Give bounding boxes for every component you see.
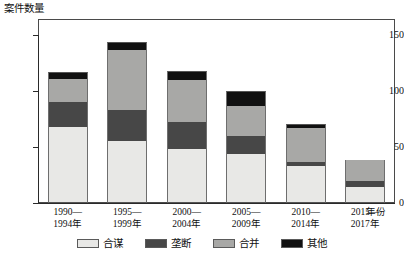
bar-segment[interactable]	[107, 50, 147, 110]
legend-swatch	[77, 239, 99, 248]
x-tick-label-line: 1999年	[96, 219, 158, 231]
bar-stack[interactable]	[107, 42, 147, 203]
x-tick-label: 2005—2009年	[215, 207, 277, 230]
bar-segment[interactable]	[345, 181, 385, 188]
bar-segment[interactable]	[226, 136, 266, 154]
x-tick-label-line: 2009年	[215, 219, 277, 231]
x-axis-line	[38, 203, 395, 204]
x-tick-label-line: 2017年	[334, 219, 396, 231]
legend-label: 合并	[239, 238, 259, 249]
bar-stack[interactable]	[226, 91, 266, 203]
bar-segment[interactable]	[226, 106, 266, 136]
bar-segment[interactable]	[48, 127, 88, 203]
legend-swatch	[281, 239, 303, 248]
legend-item[interactable]: 其他	[281, 238, 327, 249]
x-tick-label: 2000—2004年	[156, 207, 218, 230]
bar-segment[interactable]	[286, 128, 326, 162]
x-axis-title: 年份	[366, 207, 386, 219]
legend-swatch	[145, 239, 167, 248]
y-axis-title: 案件数量	[4, 2, 44, 15]
bar-segment[interactable]	[167, 122, 207, 149]
x-tick-label-line: 2004年	[156, 219, 218, 231]
bar-segment[interactable]	[107, 141, 147, 203]
legend-item[interactable]: 垄断	[145, 238, 191, 249]
x-tick-label-line: 1995—	[96, 207, 158, 219]
bar-segment[interactable]	[345, 187, 385, 203]
legend-item[interactable]: 合谋	[77, 238, 123, 249]
bar-segment[interactable]	[107, 42, 147, 50]
x-tick-label-line: 2000—	[156, 207, 218, 219]
legend-swatch	[213, 239, 235, 248]
bar-stack[interactable]	[286, 124, 326, 203]
x-tick-label-line: 2010—	[275, 207, 337, 219]
x-tick-label: 1995—1999年	[96, 207, 158, 230]
legend-label: 垄断	[171, 238, 191, 249]
bar-segment[interactable]	[286, 166, 326, 203]
bar-segment[interactable]	[48, 79, 88, 103]
bar-segment[interactable]	[107, 110, 147, 141]
bar-segment[interactable]	[48, 72, 88, 79]
bar-stack[interactable]	[167, 71, 207, 203]
stacked-bar-chart: 案件数量 050100150 1990—1994年1995—1999年2000—…	[0, 0, 404, 263]
x-tick-label-line: 2014年	[275, 219, 337, 231]
bar-segment[interactable]	[167, 149, 207, 203]
chart-legend: 合谋垄断合并其他	[0, 238, 404, 249]
x-tick-label-line: 1990—	[37, 207, 99, 219]
bar-stack[interactable]	[345, 160, 385, 203]
x-tick-label: 2010—2014年	[275, 207, 337, 230]
x-tick-label: 1990—1994年	[37, 207, 99, 230]
bar-segment[interactable]	[167, 71, 207, 80]
legend-label: 合谋	[103, 238, 123, 249]
legend-item[interactable]: 合并	[213, 238, 259, 249]
x-tick-label-line: 2005—	[215, 207, 277, 219]
bar-segment[interactable]	[226, 91, 266, 106]
plot-area	[38, 19, 395, 203]
bar-stack[interactable]	[48, 72, 88, 203]
bar-segment[interactable]	[48, 102, 88, 127]
bar-segment[interactable]	[167, 80, 207, 123]
bar-segment[interactable]	[226, 154, 266, 203]
x-tick-label-line: 1994年	[37, 219, 99, 231]
bar-segment[interactable]	[345, 160, 385, 180]
legend-label: 其他	[307, 238, 327, 249]
